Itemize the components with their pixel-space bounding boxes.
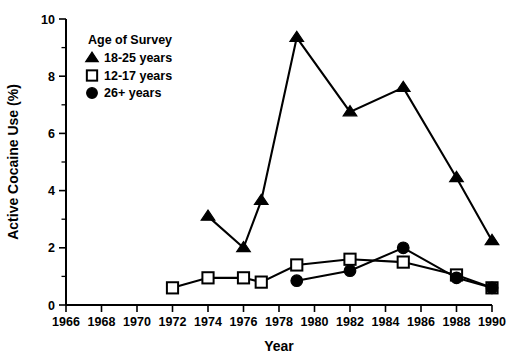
x-tick-label: 1968 <box>88 315 116 329</box>
y-tick-label: 4 <box>48 184 55 198</box>
marker-circle <box>344 265 356 277</box>
marker-square <box>202 272 213 283</box>
x-tick-label: 1966 <box>52 315 80 329</box>
marker-square <box>291 259 302 270</box>
y-axis-title: Active Cocaine Use (%) <box>5 84 21 240</box>
x-tick-label: 1980 <box>301 315 329 329</box>
marker-circle <box>451 272 463 284</box>
x-tick-label: 1986 <box>407 315 435 329</box>
legend-title: Age of Survey <box>88 33 172 47</box>
chart-container: 0246810 19661968197019721974197619781980… <box>0 0 510 359</box>
marker-square <box>167 282 178 293</box>
legend-entry-label: 26+ years <box>104 86 161 100</box>
legend-entry-label: 18-25 years <box>104 51 172 65</box>
marker-square <box>398 257 409 268</box>
x-tick-label: 1984 <box>372 315 400 329</box>
marker-square <box>238 272 249 283</box>
x-tick-label: 1988 <box>443 315 471 329</box>
y-tick-label: 6 <box>48 127 55 141</box>
marker-circle <box>486 282 498 294</box>
legend-entry-label: 12-17 years <box>104 69 172 83</box>
marker-circle <box>291 275 303 287</box>
marker-square <box>87 70 97 80</box>
marker-circle <box>397 242 409 254</box>
x-tick-label: 1990 <box>478 315 506 329</box>
marker-square <box>256 277 267 288</box>
y-tick-label: 2 <box>48 241 55 255</box>
cocaine-use-line-chart: 0246810 19661968197019721974197619781980… <box>0 0 510 359</box>
y-tick-label: 10 <box>41 13 55 27</box>
x-tick-label: 1972 <box>159 315 187 329</box>
x-tick-label: 1974 <box>194 315 222 329</box>
x-axis-title: Year <box>264 338 294 354</box>
x-tick-label: 1970 <box>123 315 151 329</box>
marker-square <box>344 254 355 265</box>
x-tick-label: 1976 <box>230 315 258 329</box>
x-tick-label: 1982 <box>336 315 364 329</box>
marker-circle <box>87 88 98 99</box>
y-tick-label: 0 <box>48 299 55 313</box>
y-tick-label: 8 <box>48 70 55 84</box>
x-tick-label: 1978 <box>265 315 293 329</box>
